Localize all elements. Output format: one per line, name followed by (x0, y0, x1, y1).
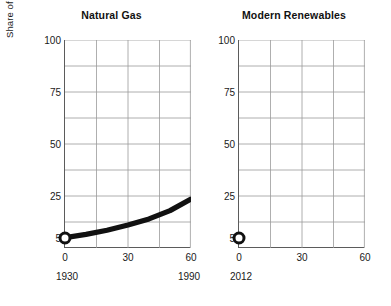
chart-title-natural-gas: Natural Gas (34, 9, 189, 21)
figure: Share of worldwide energy supply, percen… (0, 0, 391, 306)
ytick-left-100: 100 (44, 35, 61, 46)
ytick-right-100: 100 (218, 35, 235, 46)
xtick-right-0: 0 (236, 252, 242, 263)
ytick-left-75: 75 (50, 87, 61, 98)
xtick-right-60: 60 (359, 252, 370, 263)
ytick-left-25: 25 (50, 191, 61, 202)
panel-natural-gas: Natural Gas (22, 0, 202, 306)
xtick-left-30: 30 (122, 252, 133, 263)
plot-area-modern-renewables: 100 75 50 25 5 0 30 60 2012 (238, 40, 364, 248)
start-marker-natural-gas (59, 231, 72, 244)
xsublabel-right-2012: 2012 (230, 271, 252, 282)
xtick-left-60: 60 (185, 252, 196, 263)
ytick-right-50: 50 (224, 139, 235, 150)
plot-svg-natural-gas (65, 40, 191, 248)
xsublabel-left-1930: 1930 (56, 271, 78, 282)
panel-modern-renewables: Modern Renewables (196, 0, 386, 306)
xtick-right-30: 30 (296, 252, 307, 263)
plot-svg-modern-renewables (239, 40, 365, 248)
plot-area-natural-gas: 100 75 50 25 5 0 30 60 1930 1990 (64, 40, 190, 248)
xtick-left-0: 0 (62, 252, 68, 263)
start-marker-modern-renewables (233, 231, 246, 244)
chart-title-modern-renewables: Modern Renewables (214, 9, 374, 21)
ytick-right-75: 75 (224, 87, 235, 98)
y-axis-label: Share of worldwide energy supply, percen… (2, 0, 18, 54)
ytick-right-25: 25 (224, 191, 235, 202)
ytick-left-50: 50 (50, 139, 61, 150)
